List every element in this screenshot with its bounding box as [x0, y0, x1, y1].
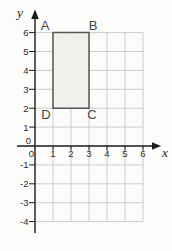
y-tick-label: -4 [20, 216, 28, 227]
coordinate-plane: 01234566543210-1-2-3-4 ABCD x y [0, 0, 172, 251]
coordinate-plane-figure: 01234566543210-1-2-3-4 ABCD x y [0, 0, 172, 251]
x-tick-label: 6 [140, 148, 145, 159]
vertex-label-B: B [89, 18, 98, 33]
y-tick-label: 2 [23, 103, 28, 114]
shape-rectangle-ABCD [53, 33, 89, 109]
y-tick-label: 4 [23, 65, 28, 76]
y-tick-label: 3 [23, 84, 28, 95]
vertex-label-D: D [41, 107, 50, 122]
rectangle-abcd [53, 33, 89, 109]
y-axis-arrow-icon [31, 10, 39, 20]
y-tick-label: -1 [20, 159, 28, 170]
vertex-label-C: C [87, 107, 96, 122]
x-tick-label: 2 [68, 148, 73, 159]
x-axis-arrow-icon [152, 142, 161, 150]
y-tick-label: 5 [23, 46, 28, 57]
x-tick-label: 4 [104, 148, 109, 159]
y-tick-label: -2 [20, 178, 28, 189]
y-tick-label: 1 [23, 122, 28, 133]
x-tick-label: 5 [122, 148, 127, 159]
x-axis-label: x [161, 145, 168, 160]
x-tick-label: 3 [86, 148, 91, 159]
y-tick-label-origin: 0 [26, 135, 31, 146]
y-tick-label: -3 [20, 197, 28, 208]
vertex-label-A: A [41, 18, 50, 33]
x-tick-label: 0 [29, 148, 34, 159]
y-axis-label: y [15, 5, 23, 20]
x-tick-label: 1 [50, 148, 55, 159]
y-tick-label: 6 [23, 27, 28, 38]
